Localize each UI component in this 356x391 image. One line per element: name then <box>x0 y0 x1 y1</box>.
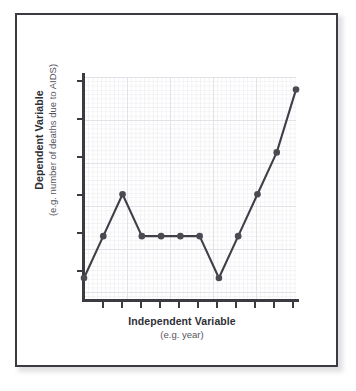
x-axis-tick <box>254 301 256 308</box>
y-axis-title-group: Dependent Variable (e.g. number of death… <box>33 40 73 240</box>
x-axis-tick <box>140 301 142 308</box>
y-axis-tick <box>77 270 84 272</box>
y-axis-line <box>82 73 85 302</box>
y-axis-tick <box>77 118 84 120</box>
y-axis-tick <box>77 156 84 158</box>
y-axis-title: Dependent Variable <box>33 40 46 240</box>
x-axis-tick <box>273 301 275 308</box>
x-axis-line <box>82 299 299 302</box>
x-axis-tick <box>292 301 294 308</box>
x-axis-tick <box>235 301 237 308</box>
y-axis-subtitle: (e.g. number of deaths due to AIDS) <box>46 40 59 240</box>
x-axis-tick <box>197 301 199 308</box>
line-chart: Dependent Variable (e.g. number of death… <box>17 15 340 369</box>
x-axis-tick <box>159 301 161 308</box>
y-axis-tick <box>77 232 84 234</box>
y-axis-tick <box>77 80 84 82</box>
x-axis-subtitle: (e.g. year) <box>57 328 307 341</box>
y-axis-tick <box>77 194 84 196</box>
figure-frame: Dependent Variable (e.g. number of death… <box>15 13 338 367</box>
x-axis-tick <box>216 301 218 308</box>
x-axis-title-group: Independent Variable (e.g. year) <box>57 315 307 341</box>
plot-grid <box>84 77 296 299</box>
x-axis-tick <box>121 301 123 308</box>
x-axis-title: Independent Variable <box>57 315 307 328</box>
x-axis-tick <box>178 301 180 308</box>
x-axis-tick <box>102 301 104 308</box>
figure-page: Dependent Variable (e.g. number of death… <box>0 0 356 391</box>
